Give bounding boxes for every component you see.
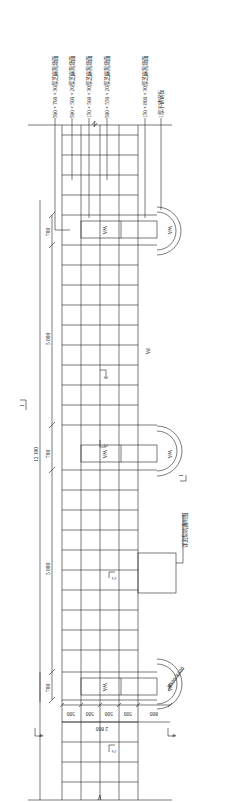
pit-1 [62, 207, 181, 255]
grid-rows-lower [62, 490, 157, 672]
label-1: 500 × 700 × 30厚芝麻黑烧面 [51, 56, 59, 118]
circle-radius-label: R500/R600 [166, 665, 186, 689]
dim-seg-4: 500 [124, 711, 133, 717]
dim-seg-3: 500 [105, 711, 114, 717]
section-2-lower: 2 [111, 750, 117, 753]
pit-labels: WA WA WA WA WA WA R500/R600 PA 详见泵坑通用图 [102, 226, 189, 692]
dim-pit-2: 700 [45, 450, 51, 459]
area-label: PA [145, 348, 151, 355]
pit-1-label: WA [102, 226, 108, 235]
section-2-upper: 2 [111, 577, 117, 580]
dim-seg-2: 500 [86, 711, 95, 717]
dimension-lines [40, 200, 172, 800]
pit-2-label: WA [102, 450, 108, 459]
pit-note: 详见泵坑通用图 [181, 513, 189, 548]
section-4-left: 4 [38, 734, 44, 737]
label-4: 500 × 550 × 20厚芝麻黑烧面 [103, 56, 111, 118]
pit-2-circle-label: WA [167, 450, 173, 459]
pit-3-label: WA [102, 683, 108, 692]
bottom-break-symbol [98, 795, 101, 800]
dim-seg-5: 800 [150, 711, 159, 717]
dim-span-1: 5 000 [45, 332, 51, 345]
dim-seg-1: 500 [67, 711, 76, 717]
pit-3 [62, 659, 184, 709]
section-1-right: 1 [178, 474, 184, 477]
grid-rows-middle [62, 265, 157, 425]
grid-rows-upper [62, 135, 157, 215]
dim-pit-1: 700 [45, 228, 51, 237]
pit-note-box [138, 553, 176, 593]
pit-1-circle-label: WA [167, 226, 173, 235]
label-3: 150 × 500 × 30厚芝麻黑烧面 [85, 56, 93, 118]
section-3-lower: 3 [103, 444, 109, 447]
dim-bottom-overall: 2 800 [95, 726, 108, 732]
label-5: 150 × 800 × 30厚芝麻黑烧面 [141, 56, 149, 118]
dim-span-2: 5 000 [45, 562, 51, 575]
section-numbers: 1 1 3 3 2 2 4 4 [19, 376, 184, 753]
dim-pit-3: 700 [45, 684, 51, 693]
material-labels: 500 × 700 × 30厚芝麻黑烧面 500 × 500 × 20厚芝麻黑烧… [51, 56, 165, 118]
paving-plan-drawing: 500 × 700 × 30厚芝麻黑烧面 500 × 500 × 20厚芝麻黑烧… [0, 0, 225, 802]
section-4-right: 4 [171, 734, 177, 737]
top-break-symbol [92, 121, 97, 127]
label-2: 500 × 500 × 20厚芝麻黑烧面 [68, 56, 76, 118]
dim-overall: 12 100 [33, 447, 39, 462]
label-6: 1厚不锈钢板 [157, 89, 165, 118]
pit-2 [62, 426, 182, 476]
section-3-upper: 3 [103, 376, 109, 379]
section-1-left: 1 [19, 404, 25, 407]
